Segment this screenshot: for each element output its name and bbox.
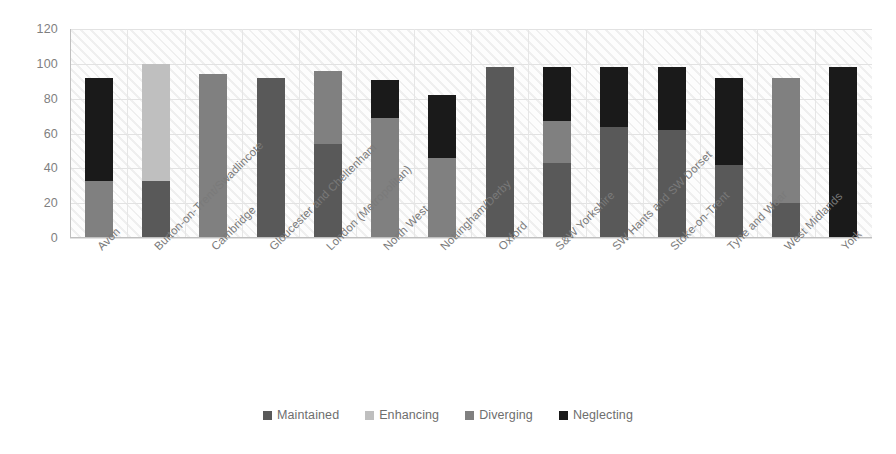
bar-segment[interactable] <box>543 121 571 163</box>
y-tick-label: 120 <box>37 22 58 36</box>
bar-segment[interactable] <box>371 80 399 118</box>
legend-item[interactable]: Diverging <box>465 408 533 422</box>
bar-group[interactable] <box>85 29 113 238</box>
bar-segment[interactable] <box>600 67 628 126</box>
bar-segment[interactable] <box>715 78 743 165</box>
y-tick-label: 20 <box>44 196 58 210</box>
legend-item[interactable]: Enhancing <box>365 408 439 422</box>
bar-segment[interactable] <box>772 78 800 203</box>
bar-segment[interactable] <box>543 163 571 238</box>
y-tick-label: 60 <box>44 127 58 141</box>
bar-segment[interactable] <box>85 78 113 181</box>
bar-group[interactable] <box>142 29 170 238</box>
bar-segment[interactable] <box>142 64 170 181</box>
legend-label: Diverging <box>479 408 533 422</box>
bar-segment[interactable] <box>543 67 571 121</box>
legend-label: Enhancing <box>379 408 439 422</box>
bar-segment[interactable] <box>257 78 285 238</box>
bar-segment[interactable] <box>199 74 227 238</box>
legend-swatch-icon <box>465 411 474 420</box>
bar-group[interactable] <box>428 29 456 238</box>
bar-group[interactable] <box>257 29 285 238</box>
y-tick-label: 80 <box>44 92 58 106</box>
legend-item[interactable]: Maintained <box>263 408 339 422</box>
bar-segment[interactable] <box>829 67 857 238</box>
y-tick-label: 40 <box>44 161 58 175</box>
x-axis: AvonBurton-on-Trent/SwadlincoteCambridge… <box>70 238 872 368</box>
bar-segment[interactable] <box>486 67 514 238</box>
y-axis: 020406080100120 <box>0 0 66 454</box>
legend-label: Maintained <box>277 408 339 422</box>
bar-segment[interactable] <box>658 67 686 130</box>
legend-swatch-icon <box>263 411 272 420</box>
y-axis-line <box>70 29 71 238</box>
y-tick-label: 100 <box>37 57 58 71</box>
y-tick-label: 0 <box>51 231 58 245</box>
legend-item[interactable]: Neglecting <box>559 408 633 422</box>
chart-legend: MaintainedEnhancingDivergingNeglecting <box>0 408 896 422</box>
bar-group[interactable] <box>543 29 571 238</box>
bar-segment[interactable] <box>428 158 456 238</box>
bar-segment[interactable] <box>428 95 456 158</box>
bar-segment[interactable] <box>314 71 342 144</box>
legend-label: Neglecting <box>573 408 633 422</box>
bar-segment[interactable] <box>600 127 628 238</box>
legend-swatch-icon <box>365 411 374 420</box>
stacked-bar-chart: 020406080100120 AvonBurton-on-Trent/Swad… <box>0 0 896 454</box>
legend-swatch-icon <box>559 411 568 420</box>
